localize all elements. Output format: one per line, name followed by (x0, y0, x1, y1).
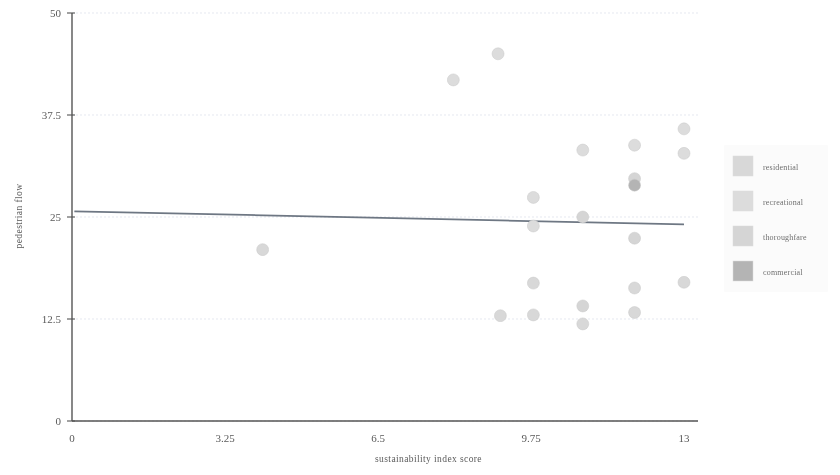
data-point[interactable] (527, 309, 539, 321)
series-commercial (629, 179, 641, 191)
legend-swatch-recreational (733, 191, 753, 211)
data-point[interactable] (678, 123, 690, 135)
data-point[interactable] (629, 179, 641, 191)
legend-swatch-residential (733, 156, 753, 176)
chart-canvas: 03.256.59.7513 012.52537.550 residential… (0, 0, 840, 475)
data-point[interactable] (527, 277, 539, 289)
y-tick-label-37.5: 37.5 (42, 109, 62, 121)
data-point[interactable] (257, 244, 269, 256)
x-tick-label-13: 13 (679, 432, 691, 444)
data-point[interactable] (629, 232, 641, 244)
data-point[interactable] (494, 310, 506, 322)
y-tick-label-25: 25 (50, 211, 62, 223)
data-point[interactable] (527, 191, 539, 203)
data-point[interactable] (577, 144, 589, 156)
chart-background (0, 0, 840, 475)
data-point[interactable] (678, 276, 690, 288)
data-point[interactable] (577, 300, 589, 312)
y-tick-label-50: 50 (50, 7, 62, 19)
data-point[interactable] (678, 147, 690, 159)
data-point[interactable] (447, 74, 459, 86)
data-point[interactable] (492, 48, 504, 60)
y-tick-label-12.5: 12.5 (42, 313, 62, 325)
x-tick-label-6.5: 6.5 (371, 432, 385, 444)
x-tick-label-0: 0 (69, 432, 75, 444)
y-axis-title: pedestrian flow (14, 184, 24, 249)
chart-legend[interactable]: residentialrecreationalthoroughfarecomme… (724, 145, 828, 292)
x-tick-label-9.75: 9.75 (521, 432, 541, 444)
legend-label-commercial: commercial (763, 268, 803, 277)
data-point[interactable] (577, 318, 589, 330)
data-point[interactable] (629, 139, 641, 151)
legend-label-thoroughfare: thoroughfare (763, 233, 807, 242)
y-tick-label-0: 0 (56, 415, 62, 427)
data-point[interactable] (629, 282, 641, 294)
x-tick-label-3.25: 3.25 (215, 432, 235, 444)
scatter-chart: 03.256.59.7513 012.52537.550 residential… (0, 0, 840, 475)
x-axis-title: sustainability index score (375, 454, 482, 464)
data-point[interactable] (629, 306, 641, 318)
legend-label-recreational: recreational (763, 198, 804, 207)
data-point[interactable] (577, 211, 589, 223)
legend-label-residential: residential (763, 163, 799, 172)
legend-swatch-commercial (733, 261, 753, 281)
legend-swatch-thoroughfare (733, 226, 753, 246)
data-point[interactable] (527, 220, 539, 232)
